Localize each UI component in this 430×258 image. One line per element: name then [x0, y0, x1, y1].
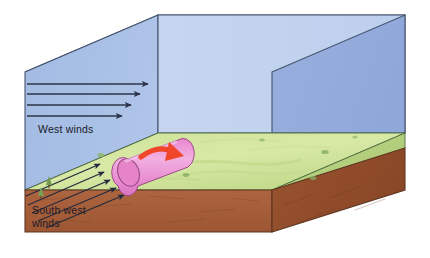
bush-icon [352, 136, 357, 139]
south-west-winds-label-line2: winds [31, 217, 60, 229]
bush-icon [183, 173, 190, 177]
west-winds-label: West winds [38, 123, 94, 135]
bush-icon [259, 138, 265, 141]
bush-icon [321, 150, 329, 154]
atmosphere-block-diagram-svg: West winds [0, 0, 430, 258]
block-diagram: West winds [0, 0, 430, 258]
bush-icon [97, 153, 104, 157]
south-west-winds-label-line1: South west [32, 204, 86, 216]
bush-icon [310, 176, 317, 180]
